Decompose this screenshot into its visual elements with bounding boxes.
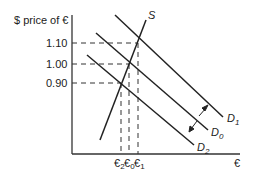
x-tick-euro1: €1	[134, 157, 145, 171]
y-axis-label: $ price of €	[14, 14, 68, 26]
demand-curve-d1	[115, 15, 223, 117]
dashed-guides	[72, 43, 138, 154]
y-tick-110: 1.10	[46, 37, 67, 49]
x-axis-label: €	[234, 157, 240, 169]
d0-label: D0	[211, 126, 224, 141]
demand-curve-d0	[96, 33, 208, 130]
supply-label: S	[148, 9, 156, 21]
d1-label: D1	[227, 112, 239, 127]
y-tick-100: 1.00	[46, 58, 67, 70]
y-tick-090: 0.90	[46, 77, 67, 89]
exchange-rate-diagram: $ price of € 1.10 1.00 0.90 S D1 D0 D2 €…	[0, 0, 253, 178]
